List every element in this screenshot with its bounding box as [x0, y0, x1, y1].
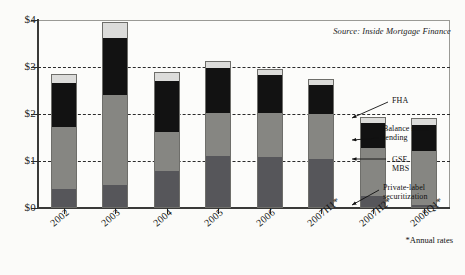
bar-segment-private-label-securitization	[103, 185, 127, 207]
bar-segment-gse-mbs	[103, 95, 127, 185]
bar-2004	[154, 72, 180, 208]
mortgage-originations-chart: $0$1$2$3$4 200220032004200520062007H1*20…	[0, 0, 465, 275]
bar-segment-balance-sheet-lending	[258, 75, 282, 113]
annotation-fha: FHA	[392, 96, 408, 105]
source-note: Source: Inside Mortgage Finance	[333, 26, 451, 36]
bar-segment-gse-mbs	[361, 148, 385, 197]
bar-segment-private-label-securitization	[155, 171, 179, 207]
bar-segment-private-label-securitization	[206, 156, 230, 207]
bar-segment-fha	[52, 75, 76, 83]
bar-segment-gse-mbs	[155, 132, 179, 171]
annotation-gse-mbs: GSE MBS	[392, 155, 409, 173]
bar-2003	[102, 22, 128, 208]
bar-segment-fha	[155, 73, 179, 81]
bar-segment-balance-sheet-lending	[361, 123, 385, 147]
bar-segment-balance-sheet-lending	[155, 81, 179, 132]
bar-segment-balance-sheet-lending	[52, 83, 76, 127]
bar-segment-balance-sheet-lending	[309, 85, 333, 114]
annotation-balance-sheet-lending: Balance sheet lending	[383, 124, 429, 142]
bar-segment-gse-mbs	[52, 127, 76, 189]
bar-2002	[51, 74, 77, 208]
annotation-private-label-securitization: Private-label securitization	[383, 183, 428, 201]
bar-2005	[205, 61, 231, 208]
bar-2007H2*	[360, 117, 386, 208]
bar-segment-fha	[103, 23, 127, 38]
bar-segment-balance-sheet-lending	[206, 68, 230, 113]
bar-segment-gse-mbs	[309, 114, 333, 159]
bar-segment-gse-mbs	[258, 113, 282, 157]
bar-segment-private-label-securitization	[258, 157, 282, 207]
footnote-annual-rates: *Annual rates	[406, 235, 453, 245]
bar-segment-private-label-securitization	[52, 189, 76, 207]
bar-segment-gse-mbs	[206, 113, 230, 157]
bar-2007H1*	[308, 79, 334, 208]
bar-2006	[257, 69, 283, 208]
bar-segment-balance-sheet-lending	[103, 38, 127, 95]
